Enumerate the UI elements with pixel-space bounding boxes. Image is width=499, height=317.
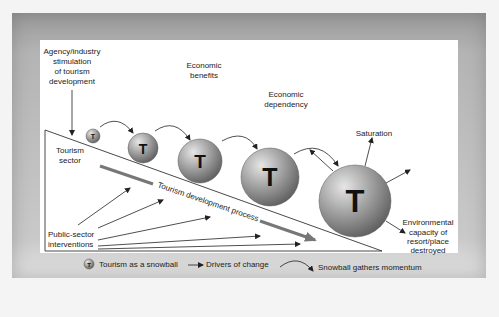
svg-text:T: T	[346, 184, 365, 219]
legend: T Tourism as a snowball Drivers of chang…	[84, 259, 422, 272]
tourism-sector-label: Tourism sector	[56, 146, 84, 165]
snowball-diagram: Tourism development process T T T T T	[0, 0, 499, 317]
svg-text:interventions: interventions	[48, 240, 93, 249]
economic-benefits-label: Economic benefits	[186, 61, 221, 80]
svg-text:destroyed: destroyed	[410, 246, 445, 255]
svg-text:Economic: Economic	[186, 61, 221, 70]
svg-text:benefits: benefits	[190, 71, 218, 80]
svg-text:T: T	[91, 133, 96, 140]
saturation-label: Saturation	[356, 129, 392, 138]
legend-momentum-label: Snowball gathers momentum	[318, 263, 422, 272]
environmental-label: Environmental capacity of resort/place d…	[402, 218, 453, 255]
legend-snowball-label: Tourism as a snowball	[99, 260, 178, 269]
svg-text:T: T	[139, 141, 148, 157]
legend-momentum-arrow-icon	[280, 261, 313, 271]
snowball-1: T	[86, 129, 100, 143]
svg-text:dependency: dependency	[264, 100, 308, 109]
svg-text:capacity of: capacity of	[409, 228, 448, 237]
legend-snowball-icon: T	[84, 259, 94, 269]
process-arrow-start	[100, 166, 153, 184]
svg-text:T: T	[194, 151, 206, 172]
snowball-4: T	[241, 148, 299, 206]
economic-dependency-label: Economic dependency	[264, 90, 308, 109]
svg-text:Agency/industry: Agency/industry	[44, 47, 101, 56]
svg-text:development: development	[49, 77, 96, 86]
agency-label: Agency/industry stimulation of tourism d…	[44, 47, 101, 86]
svg-text:T: T	[262, 163, 277, 191]
svg-text:Tourism: Tourism	[56, 146, 84, 155]
svg-text:Economic: Economic	[268, 90, 303, 99]
svg-text:resort/place: resort/place	[407, 237, 449, 246]
svg-text:T: T	[87, 262, 91, 268]
svg-text:sector: sector	[59, 156, 81, 165]
svg-text:Environmental: Environmental	[402, 218, 453, 227]
legend-drivers-label: Drivers of change	[206, 260, 269, 269]
svg-text:of tourism: of tourism	[54, 67, 89, 76]
snowball-5: T	[319, 165, 391, 237]
public-sector-label: Public-sector interventions	[48, 230, 95, 249]
snowball-3: T	[178, 139, 222, 183]
svg-text:Public-sector: Public-sector	[48, 230, 95, 239]
svg-text:stimulation: stimulation	[53, 57, 91, 66]
snowball-2: T	[128, 133, 158, 163]
